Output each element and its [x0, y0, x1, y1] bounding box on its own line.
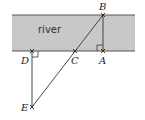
- label-C: C: [71, 55, 79, 66]
- river-region: [12, 15, 135, 51]
- label-B: B: [98, 1, 106, 12]
- label-A: A: [98, 55, 106, 66]
- label-E: E: [20, 102, 29, 113]
- label-D: D: [20, 55, 29, 66]
- river-label: river: [38, 24, 62, 35]
- diagram-canvas: river B A C D E: [0, 0, 145, 120]
